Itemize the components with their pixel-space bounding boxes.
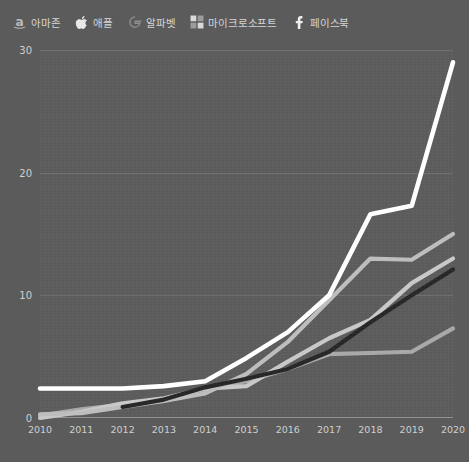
microsoft-icon — [189, 15, 204, 30]
legend-item-microsoft[interactable]: 마이크로소프트 — [189, 12, 277, 32]
x-axis: 2010 2011 2012 2013 2014 2015 2016 2017 … — [40, 424, 453, 440]
legend-item-amazon[interactable]: a 아마존 — [12, 12, 60, 32]
y-tick-20: 20 — [0, 167, 32, 178]
legend-label-apple: 애플 — [93, 15, 113, 30]
chart-legend: a 아마존 애플 알파벳 — [12, 11, 349, 33]
x-tick-2019: 2019 — [400, 424, 424, 435]
y-tick-0: 0 — [0, 413, 32, 424]
legend-label-alphabet: 알파벳 — [146, 15, 175, 30]
y-axis: 30 20 10 0 — [0, 50, 36, 418]
y-tick-30: 30 — [0, 45, 32, 56]
series-line-alphabet — [40, 259, 453, 418]
x-tick-2016: 2016 — [276, 424, 300, 435]
x-tick-2018: 2018 — [358, 424, 382, 435]
legend-item-facebook[interactable]: 페이스북 — [291, 12, 349, 32]
google-icon — [127, 15, 142, 30]
plot-area — [40, 50, 453, 418]
series-line-apple — [40, 62, 453, 388]
svg-text:a: a — [15, 15, 23, 29]
x-tick-2017: 2017 — [317, 424, 341, 435]
y-tick-10: 10 — [0, 290, 32, 301]
x-tick-2010: 2010 — [28, 424, 52, 435]
series-container — [40, 50, 453, 418]
x-tick-2015: 2015 — [234, 424, 258, 435]
legend-label-amazon: 아마존 — [31, 15, 60, 30]
x-tick-2014: 2014 — [193, 424, 217, 435]
legend-label-microsoft: 마이크로소프트 — [208, 15, 277, 30]
x-tick-2013: 2013 — [152, 424, 176, 435]
amazon-icon: a — [12, 15, 27, 30]
line-chart: a 아마존 애플 알파벳 — [0, 0, 469, 462]
facebook-icon — [291, 15, 306, 30]
legend-label-facebook: 페이스북 — [310, 15, 349, 30]
x-tick-2012: 2012 — [111, 424, 135, 435]
apple-icon — [74, 15, 89, 30]
x-tick-2020: 2020 — [441, 424, 465, 435]
legend-item-apple[interactable]: 애플 — [74, 12, 113, 32]
legend-item-alphabet[interactable]: 알파벳 — [127, 12, 175, 32]
x-tick-2011: 2011 — [69, 424, 93, 435]
